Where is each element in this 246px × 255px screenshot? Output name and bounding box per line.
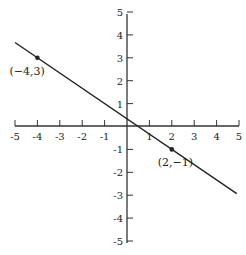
y-tick-label: -1 — [113, 144, 123, 155]
y-tick-label: 3 — [117, 53, 123, 64]
x-tick-label: 4 — [213, 131, 219, 142]
y-tick-label: -4 — [113, 213, 123, 224]
point-label: (−4,3) — [9, 65, 44, 78]
x-tick-label: -1 — [100, 131, 110, 142]
x-tick-label: 5 — [236, 131, 242, 142]
data-line — [15, 42, 237, 193]
x-axis-tick-labels: -5-4-3-2-112345 — [10, 131, 242, 142]
y-tick-label: -2 — [113, 167, 123, 178]
y-tick-label: 5 — [117, 7, 123, 18]
x-tick-label: -3 — [55, 131, 65, 142]
x-tick-label: 2 — [169, 131, 175, 142]
y-tick-label: 1 — [117, 99, 123, 110]
y-tick-label: -3 — [113, 190, 123, 201]
y-tick-label: -5 — [113, 236, 123, 247]
x-tick-label: -4 — [33, 131, 43, 142]
y-axis-tick-labels: 54321-1-2-3-4-5 — [113, 7, 123, 247]
y-tick-label: 2 — [117, 76, 123, 87]
x-tick-label: -5 — [10, 131, 20, 142]
x-tick-label: -2 — [77, 131, 87, 142]
coordinate-plane-chart: -5-4-3-2-112345 54321-1-2-3-4-5 (−4,3)(2… — [0, 0, 246, 255]
y-tick-label: 4 — [117, 30, 123, 41]
x-tick-label: 3 — [191, 131, 197, 142]
data-point — [35, 56, 40, 61]
data-point — [170, 147, 175, 152]
point-label: (2,−1) — [158, 156, 193, 169]
data-points: (−4,3)(2,−1) — [9, 56, 193, 170]
